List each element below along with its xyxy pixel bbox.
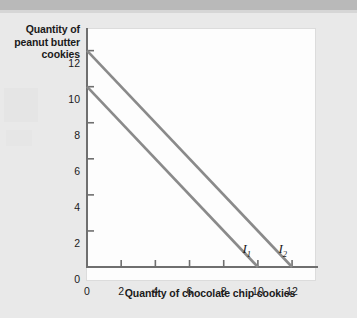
x-tick-label: 0 [77, 285, 97, 297]
y-tick-label: 6 [56, 165, 80, 177]
y-tick-label: 10 [56, 93, 80, 105]
indifference-curve-figure: Quantity of peanut butter cookies Quanti… [0, 13, 357, 318]
chart-vector-overlay [0, 13, 357, 318]
x-tick-label: 2 [111, 285, 131, 297]
indifference-curve-i2 [87, 51, 292, 267]
x-tick-label: 10 [248, 285, 268, 297]
y-tick-label: 4 [56, 201, 80, 213]
curve-label-i2: I2 [278, 241, 287, 259]
x-tick-marks [121, 260, 292, 267]
x-tick-label: 4 [145, 285, 165, 297]
curve-label-i1: I1 [243, 241, 252, 259]
y-tick-marks [87, 51, 94, 231]
y-tick-label: 0 [56, 273, 80, 285]
indifference-curve-i1 [87, 87, 258, 267]
curve-label-subscript: 2 [283, 248, 287, 258]
curve-label-subscript: 1 [247, 248, 251, 258]
y-tick-label: 8 [56, 129, 80, 141]
indifference-curves [87, 51, 292, 267]
page-top-gray-band [0, 0, 357, 10]
x-tick-label: 12 [282, 285, 302, 297]
y-tick-label: 12 [56, 57, 80, 69]
x-tick-label: 8 [214, 285, 234, 297]
x-tick-label: 6 [180, 285, 200, 297]
y-tick-label: 2 [56, 237, 80, 249]
